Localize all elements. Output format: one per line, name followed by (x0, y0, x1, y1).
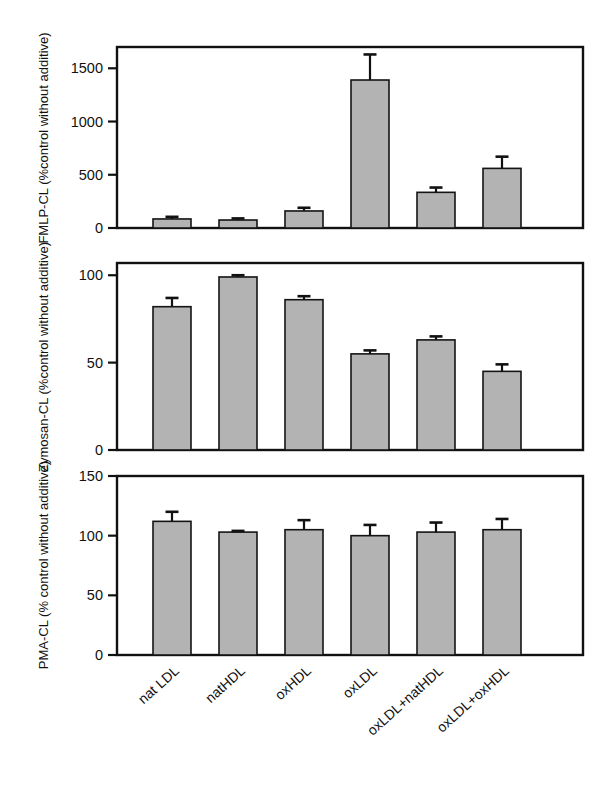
panel-top-yaxis-ticks (108, 68, 117, 228)
bar (285, 211, 323, 228)
x-axis-category-label: natHDL (202, 662, 248, 706)
y-tick-label: 50 (87, 355, 103, 371)
panel-top-bars (153, 54, 521, 228)
panel-middle-bars (153, 275, 521, 450)
y-tick-label: 150 (79, 468, 103, 484)
bar (417, 532, 455, 655)
bar (417, 192, 455, 228)
panel-bottom-axis-title: PMA-CL (% control without additive) (36, 461, 51, 669)
x-axis-category-labels: nat LDLnatHDLoxHDLoxLDLoxLDL+natHDLoxLDL… (135, 662, 512, 738)
y-tick-label: 100 (79, 528, 103, 544)
y-tick-label: 100 (79, 267, 103, 283)
y-tick-label: 1500 (71, 60, 103, 76)
bar (483, 371, 521, 450)
bar (351, 536, 389, 655)
bar (153, 219, 191, 228)
panel-middle-yaxis-ticks (108, 275, 117, 450)
bar (285, 300, 323, 450)
bar (219, 277, 257, 450)
panel-middle-axis-title: Zymosan-CL (%control without additive) (36, 242, 51, 472)
y-tick-label: 500 (79, 167, 103, 183)
bar (153, 307, 191, 450)
bar (351, 354, 389, 450)
panel-bottom: 050100150 PMA-CL (% control without addi… (36, 461, 583, 669)
panel-top-ytick-labels: 050010001500 (71, 60, 103, 236)
y-tick-label: 50 (87, 587, 103, 603)
y-tick-label: 0 (95, 647, 103, 663)
panel-middle: 050100 Zymosan-CL (%control without addi… (36, 242, 583, 472)
panel-middle-ytick-labels: 050100 (79, 267, 103, 458)
bar (219, 220, 257, 228)
panel-bottom-ytick-labels: 050100150 (79, 468, 103, 663)
x-axis-category-label: oxLDL+oxHDL (433, 662, 512, 735)
three-panel-bar-chart: 050010001500 FMLP-CL (%control without a… (0, 0, 605, 793)
x-axis-category-label: oxHDL (271, 662, 314, 703)
y-tick-label: 0 (95, 220, 103, 236)
panel-bottom-bars (153, 512, 521, 655)
x-axis-category-label: nat LDL (135, 662, 182, 707)
bar (153, 521, 191, 655)
x-axis-category-label: oxLDL (339, 662, 380, 701)
bar (351, 80, 389, 228)
y-tick-label: 1000 (71, 114, 103, 130)
panel-top-axis-title: FMLP-CL (%control without additive) (36, 32, 51, 243)
y-tick-label: 0 (95, 442, 103, 458)
bar (483, 530, 521, 655)
bar (417, 340, 455, 450)
panel-top: 050010001500 FMLP-CL (%control without a… (36, 32, 583, 243)
figure-container: 050010001500 FMLP-CL (%control without a… (0, 0, 605, 793)
panel-bottom-yaxis-ticks (108, 476, 117, 655)
bar (483, 168, 521, 228)
bar (285, 530, 323, 655)
bar (219, 532, 257, 655)
